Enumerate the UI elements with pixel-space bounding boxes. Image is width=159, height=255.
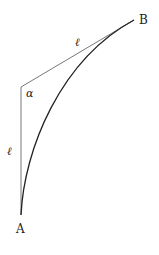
diagram-canvas: B ℓ α ℓ A bbox=[0, 0, 159, 255]
point-b-label: B bbox=[139, 14, 148, 26]
slanted-length-label: ℓ bbox=[75, 37, 80, 48]
point-a-label: A bbox=[16, 223, 25, 235]
vertical-length-label: ℓ bbox=[7, 146, 12, 157]
curve-a-to-b bbox=[21, 20, 134, 215]
angle-alpha-label: α bbox=[26, 88, 33, 99]
